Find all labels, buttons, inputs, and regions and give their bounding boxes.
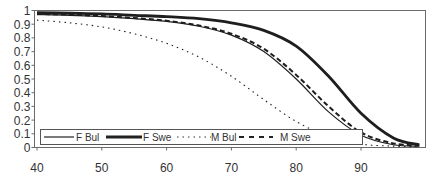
x-tick-label: 60 <box>160 161 174 175</box>
legend: F Bul F Swe M Bul M Swe <box>41 130 363 145</box>
y-tick-label: 0 <box>24 141 31 155</box>
x-tick-label: 90 <box>354 161 368 175</box>
survival-line-chart: 00.10.20.30.40.50.60.70.80.91 4050607080… <box>0 0 432 180</box>
plot-area-frame <box>35 11 426 148</box>
y-tick-label: 0.8 <box>14 31 31 45</box>
x-tick-label: 80 <box>290 161 304 175</box>
y-tick-label: 0.2 <box>14 114 31 128</box>
legend-label-f-swe: F Swe <box>143 132 172 143</box>
y-tick-label: 0.9 <box>14 18 31 32</box>
series-line-f-bul <box>37 15 419 147</box>
series-lines <box>37 13 419 147</box>
legend-label-m-swe: M Swe <box>280 132 311 143</box>
y-tick-label: 0.4 <box>14 86 31 100</box>
x-tick-label: 50 <box>95 161 109 175</box>
x-tick-label: 70 <box>225 161 239 175</box>
series-line-m-bul <box>37 20 419 147</box>
x-axis-tick-labels: 405060708090 <box>30 148 368 176</box>
y-tick-label: 0.5 <box>14 73 31 87</box>
y-tick-label: 0.1 <box>14 127 31 141</box>
y-tick-label: 0.7 <box>14 45 31 59</box>
legend-label-m-bul: M Bul <box>211 132 237 143</box>
y-axis-tick-labels: 00.10.20.30.40.50.60.70.80.91 <box>14 4 35 155</box>
y-tick-label: 0.6 <box>14 59 31 73</box>
y-tick-label: 0.3 <box>14 100 31 114</box>
legend-label-f-bul: F Bul <box>76 132 99 143</box>
series-line-m-swe <box>37 14 419 146</box>
x-tick-label: 40 <box>30 161 44 175</box>
y-tick-label: 1 <box>24 4 31 18</box>
